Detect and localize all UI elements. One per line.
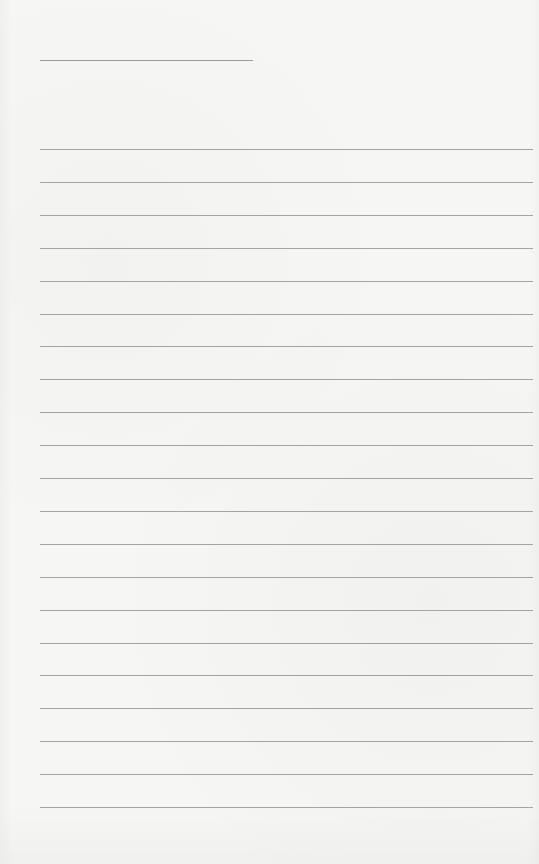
ruled-line: [40, 314, 533, 315]
ruled-line: [40, 346, 533, 347]
ruled-line: [40, 741, 533, 742]
ruled-line: [40, 774, 533, 775]
ruled-line: [40, 708, 533, 709]
ruled-line: [40, 215, 533, 216]
ruled-line: [40, 149, 533, 150]
ruled-line: [40, 807, 533, 808]
ruled-line: [40, 379, 533, 380]
ruled-line: [40, 248, 533, 249]
ruled-line: [40, 281, 533, 282]
header-signature-line: [40, 60, 253, 61]
ruled-line: [40, 544, 533, 545]
ruled-line: [40, 478, 533, 479]
lined-paper-page: [0, 0, 539, 864]
ruled-line: [40, 577, 533, 578]
ruled-line: [40, 445, 533, 446]
ruled-line: [40, 182, 533, 183]
ruled-line: [40, 511, 533, 512]
ruled-line: [40, 675, 533, 676]
ruled-line: [40, 610, 533, 611]
ruled-line: [40, 643, 533, 644]
ruled-line: [40, 412, 533, 413]
